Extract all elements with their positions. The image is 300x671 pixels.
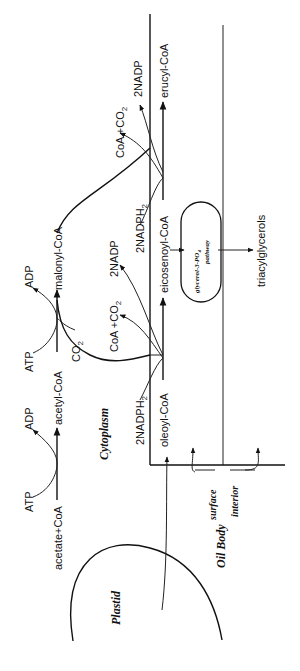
eicosenoyl-coa-label: eicosenoyl-CoA [158,215,170,293]
plastid-boundary [71,545,222,641]
oleoyl-coa-label: oleoyl-CoA [158,393,170,447]
atp-adp-arc-1 [33,430,57,497]
glycerol-pathway-label-2: pathway [203,239,211,265]
acetate-coa-label: acetate+CoA [52,505,64,570]
coa-co2-out-1 [120,315,163,358]
nadph-label-1: 2NADPH2 [134,395,149,445]
malonyl-coa-label: malonyl-CoA [52,226,64,290]
atp-adp-arc-2 [33,288,57,353]
triacylglycerols-label: triacylglycerols [255,214,267,287]
glycerol-pathway-label-1: glycerol-3-PO4 [193,250,202,294]
nadp-label-2: 2NADP [132,60,144,97]
nadp-label-1: 2NADP [108,240,120,277]
fatty-acid-elongation-diagram: acetate+CoA ATP ADP acetyl-CoA ATP ADP C… [0,0,300,671]
co2-in-arc [57,318,75,330]
adp-label-2: ADP [23,265,35,288]
coa-co2-label-1: CoA +CO2 [108,300,123,352]
oil-body-label: Oil Body [214,524,228,568]
oil-body-surface-label: surface [207,489,218,521]
erucyl-coa-label: erucyl-CoA [158,43,170,98]
atp-label-2: ATP [23,351,35,372]
surface-arrow [192,448,195,472]
acetyl-coa-label: acetyl-CoA [52,371,64,425]
coa-co2-label-2: CoA +CO2 [114,106,129,158]
oil-body-interior-label: interior [229,486,240,517]
plastid-label: Plastid [109,590,123,625]
atp-label-1: ATP [23,491,35,512]
plastid-export-arrow [162,457,167,610]
nadp-out-1 [120,265,163,355]
interior-arrow [245,448,258,470]
nadp-out-2 [140,105,163,172]
adp-label-1: ADP [23,407,35,430]
cytoplasm-label: Cytoplasm [97,408,111,460]
